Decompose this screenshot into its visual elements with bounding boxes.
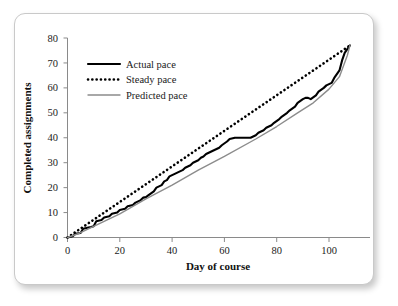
- figure-card: [14, 13, 374, 285]
